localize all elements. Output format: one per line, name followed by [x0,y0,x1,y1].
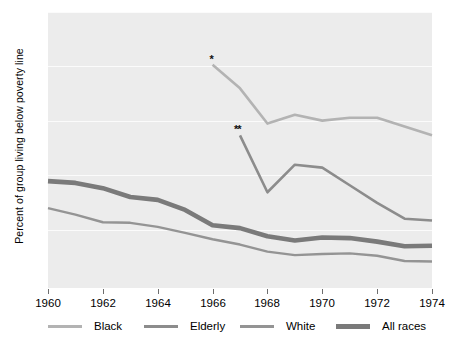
x-tickmark-1964 [158,289,159,294]
x-tick-label-1968: 1968 [242,296,292,310]
x-tick-label-1972: 1972 [352,296,402,310]
x-tickmark-1972 [377,289,378,294]
legend-item-black: Black [48,319,144,333]
legend-swatch-black [48,325,82,328]
legend-swatch-all-races [336,324,370,329]
x-tickmark-1966 [213,289,214,294]
x-tick-label-1974: 1974 [407,296,450,310]
series-line-all-races [48,181,432,246]
legend-item-white: White [240,319,336,333]
x-tickmark-1968 [267,289,268,294]
legend-label-black: Black [94,319,122,333]
footnote-marker-elderly: ** [234,125,241,133]
legend-item-all-races: All races [336,319,432,333]
legend-label-all-races: All races [382,319,426,333]
x-tick-label-1964: 1964 [133,296,183,310]
chart-legend: Black Elderly White All races [48,318,432,334]
x-tickmark-1960 [48,289,49,294]
legend-label-elderly: Elderly [190,319,225,333]
footnote-marker-black: * [210,55,213,63]
legend-item-elderly: Elderly [144,319,240,333]
x-tickmark-1970 [322,289,323,294]
series-layer [48,12,432,288]
legend-swatch-white [240,325,274,328]
x-tick-label-1966: 1966 [188,296,238,310]
legend-swatch-elderly [144,325,178,328]
x-tickmark-1974 [432,289,433,294]
x-tickmark-1962 [103,289,104,294]
series-line-black [213,65,432,135]
x-tick-label-1960: 1960 [23,296,73,310]
x-tick-label-1962: 1962 [78,296,128,310]
x-tick-label-1970: 1970 [297,296,347,310]
y-axis-title: Percent of group living below poverty li… [12,8,26,284]
series-line-white [48,208,432,261]
series-line-elderly [240,135,432,220]
legend-label-white: White [286,319,315,333]
